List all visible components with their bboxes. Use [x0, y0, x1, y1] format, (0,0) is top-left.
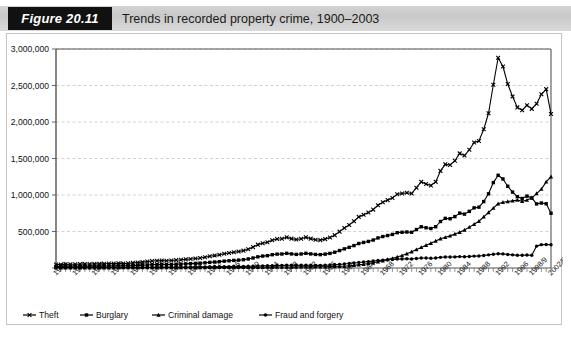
y-axis-tick-label: 500,000 — [18, 227, 49, 237]
figure-number-tag: Figure 20.11 — [8, 7, 112, 30]
series-burglary — [54, 174, 552, 269]
x-axis-tick-label: 1996 — [512, 259, 530, 277]
x-axis-tick-label: 2002/03 — [546, 252, 563, 277]
legend-label: Criminal damage — [168, 310, 233, 320]
y-axis-tick-label: 2,500,000 — [11, 81, 49, 91]
x-axis-tick-label: 1968 — [378, 259, 396, 277]
x-axis-tick-label: 1984 — [455, 259, 473, 277]
chart-legend: TheftBurglaryCriminal damageFraud and fo… — [23, 310, 344, 320]
x-axis-tick-label: 1980 — [436, 259, 454, 277]
legend-label: Theft — [39, 310, 59, 320]
line-chart: 500,0001,000,0001,500,0002,000,0002,500,… — [7, 34, 563, 326]
y-axis-tick-label: 1,500,000 — [11, 154, 49, 164]
y-axis-tick-label: 1,000,000 — [11, 190, 49, 200]
x-axis-tick-label: 1976 — [416, 259, 434, 277]
x-axis-tick-label: 1992 — [493, 259, 511, 277]
x-axis-tick-label: 1988 — [474, 259, 492, 277]
legend-label: Fraud and forgery — [275, 310, 344, 320]
y-axis-tick-label: 2,000,000 — [11, 117, 49, 127]
figure-caption: Trends in recorded property crime, 1900–… — [122, 7, 379, 30]
legend-label: Burglary — [96, 310, 129, 320]
x-axis-tick-label: 1956 — [320, 259, 338, 277]
chart-frame: 500,0001,000,0001,500,0002,000,0002,500,… — [6, 33, 562, 325]
x-axis-tick-label: 1998/9 — [527, 255, 549, 277]
x-axis-tick-label: 1972 — [397, 259, 415, 277]
chart-plot-area: 500,0001,000,0001,500,0002,000,0002,500,… — [7, 34, 563, 326]
y-axis-tick-label: 3,000,000 — [11, 44, 49, 54]
series-theft — [54, 56, 553, 267]
